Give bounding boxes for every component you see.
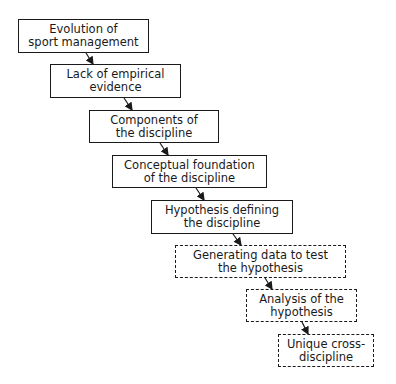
node-lack-of-empirical-evidence: Lack of empirical evidence — [50, 64, 181, 98]
arrow-2-3 — [124, 98, 132, 110]
arrow-6-7 — [265, 278, 272, 289]
arrow-5-6 — [233, 234, 241, 245]
arrow-4-5 — [196, 188, 204, 200]
node-generating-data: Generating data to test the hypothesis — [175, 245, 346, 278]
arrow-3-4 — [160, 143, 168, 155]
arrow-1-2 — [86, 53, 93, 64]
arrow-7-8 — [302, 322, 308, 334]
node-conceptual-foundation: Conceptual foundation of the discipline — [112, 155, 267, 188]
node-hypothesis-defining: Hypothesis defining the discipline — [151, 200, 293, 234]
node-unique-cross-discipline: Unique cross- discipline — [278, 334, 374, 367]
node-label: Hypothesis defining the discipline — [165, 204, 279, 230]
node-evolution-of-sport-management: Evolution of sport management — [18, 19, 149, 53]
connector-arrows — [0, 0, 396, 384]
node-label: Conceptual foundation of the discipline — [124, 159, 255, 185]
node-label: Lack of empirical evidence — [66, 68, 164, 94]
node-label: Generating data to test the hypothesis — [193, 249, 328, 275]
node-label: Evolution of sport management — [28, 23, 138, 49]
node-components-of-the-discipline: Components of the discipline — [89, 110, 219, 143]
node-analysis-of-hypothesis: Analysis of the hypothesis — [246, 289, 357, 322]
node-label: Components of the discipline — [110, 114, 198, 140]
node-label: Analysis of the hypothesis — [259, 293, 344, 319]
node-label: Unique cross- discipline — [287, 338, 365, 364]
